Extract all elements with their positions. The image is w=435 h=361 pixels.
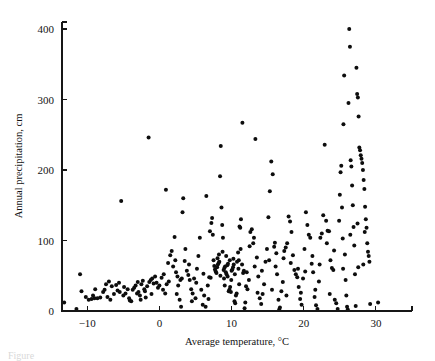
data-point bbox=[139, 282, 143, 286]
data-point bbox=[298, 297, 302, 301]
data-point bbox=[264, 260, 268, 264]
data-point bbox=[236, 251, 240, 255]
data-point bbox=[204, 305, 208, 309]
data-point bbox=[170, 249, 174, 253]
data-point bbox=[260, 269, 264, 273]
data-point bbox=[104, 282, 108, 286]
data-point bbox=[362, 187, 366, 191]
data-point bbox=[255, 255, 259, 259]
data-point bbox=[310, 262, 314, 266]
data-point bbox=[218, 274, 222, 278]
data-point bbox=[318, 262, 322, 266]
data-point bbox=[357, 114, 361, 118]
data-point bbox=[93, 287, 97, 291]
data-point bbox=[341, 236, 345, 240]
data-point bbox=[268, 189, 272, 193]
data-point bbox=[160, 276, 164, 280]
data-point bbox=[266, 215, 270, 219]
data-point bbox=[352, 225, 356, 229]
data-point bbox=[221, 236, 225, 240]
data-point bbox=[206, 297, 210, 301]
data-point bbox=[233, 301, 237, 305]
data-point bbox=[226, 262, 230, 266]
data-point bbox=[342, 74, 346, 78]
data-point bbox=[256, 291, 260, 295]
data-point bbox=[167, 279, 171, 283]
data-point bbox=[304, 210, 308, 214]
data-point bbox=[274, 265, 278, 269]
data-point bbox=[74, 307, 78, 311]
x-tick-label: 30 bbox=[370, 317, 382, 329]
data-point bbox=[217, 260, 221, 264]
data-point bbox=[212, 258, 216, 262]
data-point bbox=[360, 161, 364, 165]
data-point bbox=[199, 288, 203, 292]
data-point bbox=[181, 196, 185, 200]
data-point bbox=[237, 282, 241, 286]
data-point bbox=[236, 267, 240, 271]
data-point bbox=[141, 279, 145, 283]
data-point bbox=[196, 254, 200, 258]
data-point bbox=[145, 284, 149, 288]
data-point bbox=[188, 278, 192, 282]
data-point bbox=[347, 27, 351, 31]
data-point bbox=[112, 292, 116, 296]
axis-titles-layer: Average temperature, °C Annual precipita… bbox=[13, 114, 289, 347]
data-point bbox=[376, 301, 380, 305]
data-point bbox=[139, 298, 143, 302]
data-point bbox=[278, 305, 282, 309]
x-tick-label: 20 bbox=[298, 317, 310, 329]
data-point bbox=[356, 95, 360, 99]
data-point bbox=[332, 248, 336, 252]
data-point bbox=[218, 174, 222, 178]
data-point bbox=[229, 278, 233, 282]
data-point bbox=[216, 256, 220, 260]
data-point bbox=[302, 247, 306, 251]
data-point bbox=[344, 293, 348, 297]
data-point bbox=[222, 277, 226, 281]
data-point bbox=[209, 221, 213, 225]
data-point bbox=[292, 268, 296, 272]
data-point bbox=[276, 298, 280, 302]
data-point bbox=[224, 254, 228, 258]
data-point bbox=[305, 223, 309, 227]
data-point bbox=[348, 45, 352, 49]
data-point bbox=[232, 262, 236, 266]
data-point bbox=[84, 295, 88, 299]
data-point bbox=[339, 164, 343, 168]
data-point bbox=[344, 278, 348, 282]
data-point bbox=[361, 262, 365, 266]
data-point bbox=[311, 270, 315, 274]
data-point bbox=[367, 260, 371, 264]
data-point bbox=[261, 292, 265, 296]
data-point bbox=[107, 279, 111, 283]
data-point bbox=[337, 219, 341, 223]
data-point bbox=[173, 235, 177, 239]
data-point bbox=[339, 170, 343, 174]
data-point bbox=[354, 66, 358, 70]
y-tick-label: 200 bbox=[38, 164, 55, 176]
data-point bbox=[187, 262, 191, 266]
data-point bbox=[173, 258, 177, 262]
data-point bbox=[229, 290, 233, 294]
data-point bbox=[119, 199, 123, 203]
data-point bbox=[191, 291, 195, 295]
data-point bbox=[183, 259, 187, 263]
data-point bbox=[323, 143, 327, 147]
data-point bbox=[325, 241, 329, 245]
data-point bbox=[363, 205, 367, 209]
data-point bbox=[233, 272, 237, 276]
data-point bbox=[162, 272, 166, 276]
data-point bbox=[108, 298, 112, 302]
data-point bbox=[238, 226, 242, 230]
data-point bbox=[317, 279, 321, 283]
data-point bbox=[313, 288, 317, 292]
data-point bbox=[296, 267, 300, 271]
data-point bbox=[91, 293, 95, 297]
data-point bbox=[289, 261, 293, 265]
data-point bbox=[117, 281, 121, 285]
data-point bbox=[367, 254, 371, 258]
data-point bbox=[343, 253, 347, 257]
tick-labels-layer: −1001020300100200300400 bbox=[38, 23, 382, 329]
data-point bbox=[186, 273, 190, 277]
